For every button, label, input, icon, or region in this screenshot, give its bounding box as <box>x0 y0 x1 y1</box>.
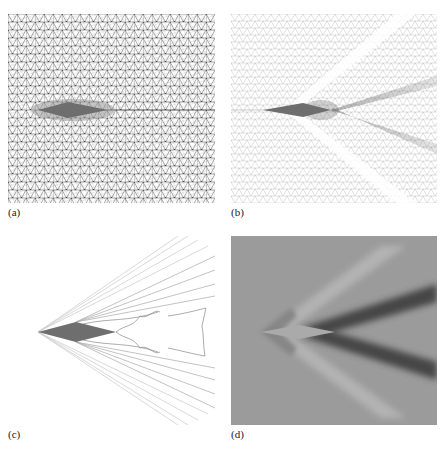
panel-c-contours <box>8 236 215 425</box>
panel-label-b: (b) <box>231 206 244 218</box>
panel-a-mesh <box>8 14 215 203</box>
adapted-mesh-plot <box>231 14 437 203</box>
shaded-field-plot <box>231 236 437 425</box>
contour-plot <box>8 236 215 425</box>
panel-b-adapted-mesh <box>231 14 437 203</box>
panel-d-shaded-field <box>231 236 437 425</box>
panel-label-d: (d) <box>231 428 244 440</box>
mesh-plot <box>8 14 215 203</box>
panel-label-a: (a) <box>8 206 20 218</box>
panel-label-c: (c) <box>8 428 20 440</box>
